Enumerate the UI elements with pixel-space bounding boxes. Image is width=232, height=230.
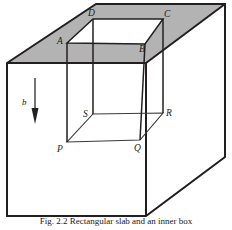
vertex-label-Q: Q (134, 143, 141, 153)
vertex-label-D: D (87, 8, 95, 18)
geometric-diagram: A B C D S R P Q b (0, 0, 232, 230)
vertex-label-C: C (164, 9, 171, 19)
vertex-label-P: P (56, 144, 63, 154)
vertex-label-B: B (139, 44, 145, 54)
vertex-label-R: R (165, 108, 172, 118)
vertex-label-A: A (56, 36, 63, 46)
figure-container: A B C D S R P Q b Fig. 2.2 Rectangular s… (0, 0, 232, 230)
vertex-label-S: S (83, 109, 88, 119)
slab-front-face (7, 63, 146, 216)
outer-block (7, 4, 225, 216)
figure-caption: Fig. 2.2 Rectangular slab and an inner b… (0, 216, 232, 226)
b-vector-label: b (22, 97, 27, 107)
